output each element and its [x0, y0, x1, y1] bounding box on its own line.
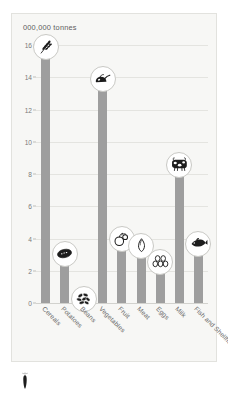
x-axis-label-eggs: Eggs — [155, 305, 171, 321]
eggs-icon — [151, 252, 170, 271]
fish-icon — [189, 234, 208, 253]
arrow-marker — [19, 372, 31, 390]
gridline-0 — [36, 303, 208, 304]
x-label-slot: Milk — [170, 305, 189, 365]
bar-slot-fish-and-shellfish — [189, 45, 208, 303]
y-tick-label-6: 6 — [28, 203, 32, 210]
bar-slot-eggs — [151, 45, 170, 303]
y-tick-label-2: 2 — [28, 267, 32, 274]
y-tick-label-16: 16 — [25, 42, 32, 49]
y-tick-label-8: 8 — [28, 171, 32, 178]
bar-vegetables[interactable] — [98, 80, 107, 303]
x-label-slot: Potatoes — [55, 305, 74, 365]
bar-slot-fruit — [112, 45, 131, 303]
chart-card: 000,000 tonnes 0246810121416 CerealsPota… — [11, 13, 217, 362]
y-tick-label-0: 0 — [28, 300, 32, 307]
y-tick-label-4: 4 — [28, 235, 32, 242]
bar-series — [36, 45, 208, 303]
bar-slot-vegetables — [93, 45, 112, 303]
y-tick-label-12: 12 — [25, 106, 32, 113]
x-axis-label-milk: Milk — [174, 305, 188, 319]
y-tick-label-14: 14 — [25, 74, 32, 81]
x-label-slot: Beans — [74, 305, 93, 365]
x-label-slot: Fruit — [112, 305, 131, 365]
bar-slot-cereals — [36, 45, 55, 303]
bar-cereals[interactable] — [41, 48, 50, 303]
x-axis-label-meat: Meat — [136, 305, 152, 321]
x-label-slot: Eggs — [151, 305, 170, 365]
plot-area: 0246810121416 — [36, 45, 208, 303]
cow-icon — [170, 155, 189, 174]
x-axis-label-fish-and-shellfish: Fish and Shellfish — [193, 305, 228, 348]
x-axis-labels: CerealsPotatoesBeansVegetablesFruitMeatE… — [36, 305, 208, 365]
x-label-slot: Cereals — [36, 305, 55, 365]
x-label-slot: Meat — [132, 305, 151, 365]
vegetables-icon — [93, 70, 112, 89]
bar-slot-potatoes — [55, 45, 74, 303]
x-label-slot: Fish and Shellfish — [189, 305, 208, 365]
bar-slot-milk — [170, 45, 189, 303]
potato-icon — [55, 244, 74, 263]
bar-milk[interactable] — [175, 166, 184, 303]
wheat-icon — [36, 38, 55, 57]
x-label-slot: Vegetables — [93, 305, 112, 365]
chart-title: 000,000 tonnes — [23, 23, 77, 32]
x-axis-label-fruit: Fruit — [117, 305, 132, 320]
y-tick-label-10: 10 — [25, 138, 32, 145]
icon-badge-fish-and-shellfish — [185, 231, 211, 257]
meat-icon — [132, 236, 151, 255]
